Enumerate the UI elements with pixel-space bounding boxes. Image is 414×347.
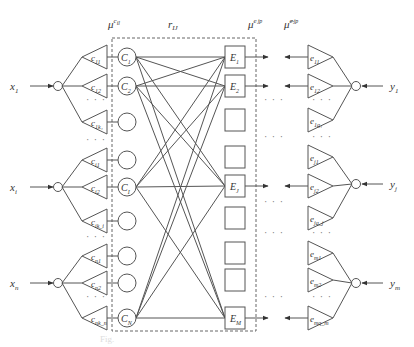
output-node-circle <box>352 180 361 189</box>
e-box-label-main: E <box>229 181 236 192</box>
output-defuzzification-side: e11e12e1q₁ej1ej2ejq_jem1em2emq_my1yjym· … <box>285 45 400 330</box>
fan-line <box>333 283 352 318</box>
ellipsis-dots: · · · <box>264 131 284 142</box>
ellipsis-dots: · · · <box>312 131 332 142</box>
triangle-label-sub: m1 <box>314 255 321 261</box>
triangle-label-sub: jq_j <box>313 220 324 226</box>
input-label-xi: xi <box>9 181 17 196</box>
fan-line <box>62 283 82 318</box>
c-node-circle <box>118 274 136 292</box>
fan-line <box>333 157 352 184</box>
ellipsis-dots: · · · <box>86 231 106 242</box>
output-label-y1-sub: 1 <box>395 87 399 95</box>
relation-connections <box>136 57 225 318</box>
fan-line <box>62 86 82 122</box>
output-label-yj-sub: j <box>394 185 397 193</box>
ellipsis-dots: · · · <box>264 227 284 238</box>
e-box-label-sub: 1 <box>236 59 239 65</box>
triangle-label-sub: m2 <box>314 282 321 288</box>
triangle-label-sub: 11 <box>314 59 320 65</box>
fan-line <box>333 280 352 283</box>
fan-line <box>62 187 82 221</box>
fan-line <box>62 57 82 86</box>
triangle-label-sub: 11 <box>95 59 101 65</box>
triangle-label-sub: 1k₁ <box>95 124 103 130</box>
ellipsis-dots: · · · <box>86 134 106 145</box>
ellipsis-dots: · · · <box>312 291 332 302</box>
input-node-circle <box>54 279 63 288</box>
input-label-xn: xn <box>9 277 19 292</box>
ellipsis-dots: · · · <box>312 94 332 105</box>
e-box-label-sub: J <box>236 188 239 194</box>
e-box <box>225 109 245 131</box>
c-node-circle <box>118 247 136 265</box>
fan-line <box>333 253 352 283</box>
e-box-label-sub: M <box>235 320 242 326</box>
ellipsis-dots: · · · <box>312 227 332 238</box>
output-label-y1: y1 <box>389 80 398 95</box>
e-box <box>225 207 245 229</box>
c-node-circle <box>118 151 136 169</box>
triangle-label-sub: j2 <box>313 188 319 194</box>
e-box-label-main: E <box>229 52 236 63</box>
e-box <box>225 242 245 264</box>
fan-line <box>333 184 352 218</box>
output-node-circle <box>352 82 361 91</box>
ellipsis-dots: · · · <box>264 196 284 207</box>
ellipsis-dots: · · · <box>264 291 284 302</box>
triangle-label-sub: 1q₁ <box>314 122 322 128</box>
triangle-label-sub: n1 <box>95 258 101 264</box>
c-node-label-sub: 2 <box>128 88 131 94</box>
e-box-label-sub: 2 <box>236 88 239 94</box>
output-label-ym-sub: m <box>395 284 400 292</box>
input-label-xi-sub: i <box>15 188 17 196</box>
input-label-x1-sub: 1 <box>15 87 19 95</box>
fan-line <box>333 184 352 186</box>
output-label-ym: ym <box>389 277 400 292</box>
fan-line <box>333 57 352 86</box>
e-box <box>225 146 245 168</box>
triangle-label-sub: mq_m <box>314 320 329 326</box>
mu-c-label: μcil <box>107 17 120 30</box>
triangle-label-sub: ik_i <box>95 223 104 229</box>
input-label-x1: x1 <box>9 80 18 95</box>
header-labels: μcil rIJ μejp μ̂ejp <box>107 17 298 32</box>
triangle-label-sub: j1 <box>313 159 319 165</box>
e-box-label-main: E <box>229 313 236 324</box>
e-box <box>225 269 245 291</box>
output-node-circle <box>352 279 361 288</box>
figure-caption: Fig. <box>100 334 114 344</box>
relation-nodes: C1C2CICNE1E2EJEM· · ·· · ·· · ·· · ·· · … <box>118 46 284 329</box>
ellipsis-dots: · · · <box>264 94 284 105</box>
mu-hat-label: μ̂ejp <box>283 17 298 30</box>
r-IJ-label: rIJ <box>168 18 179 32</box>
fan-line <box>62 160 82 187</box>
c-node-circle <box>118 113 136 131</box>
input-node-circle <box>54 183 63 192</box>
input-fuzzification-side: x1xixnc11c12c1k₁ci1ci2cik_icn1cn2cnk_n· … <box>9 45 118 330</box>
ellipsis-dots: · · · <box>86 94 106 105</box>
output-label-yj: yj <box>389 178 397 193</box>
c-node-label-sub: 1 <box>128 59 131 65</box>
fan-line <box>62 256 82 283</box>
c-node-circle <box>118 212 136 230</box>
ellipsis-dots: · · · <box>86 291 106 302</box>
input-label-xn-sub: n <box>15 284 19 292</box>
fuzzy-relation-network-diagram: μcil rIJ μejp μ̂ejp x1xixnc11c12c1k₁ci1c… <box>0 0 414 347</box>
triangle-label-sub: nk_n <box>95 320 107 326</box>
triangle-label-sub: i1 <box>95 162 100 168</box>
e-box-label-main: E <box>229 81 236 92</box>
mu-e-label: μejp <box>247 17 262 30</box>
fan-line <box>333 86 352 120</box>
triangle-label-sub: i2 <box>95 189 100 195</box>
input-node-circle <box>54 82 63 91</box>
